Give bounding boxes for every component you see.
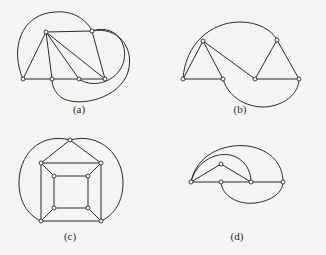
graph-c [19, 138, 123, 223]
caption-d: (d) [231, 230, 244, 242]
graph-b [181, 22, 301, 107]
graph-a [18, 12, 130, 102]
caption-c: (c) [64, 230, 76, 242]
caption-a: (a) [73, 103, 85, 115]
graph-d [189, 146, 285, 204]
graph-diagram [0, 0, 326, 255]
caption-b: (b) [234, 103, 247, 115]
